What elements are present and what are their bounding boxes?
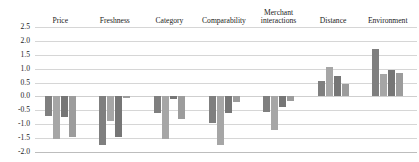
bar bbox=[388, 70, 395, 96]
y-axis-tick-label: -1.5 bbox=[18, 134, 30, 142]
bar bbox=[45, 96, 52, 115]
bar bbox=[178, 96, 185, 118]
bar bbox=[170, 96, 177, 99]
category-label-freshness: Freshness bbox=[84, 17, 147, 26]
bar bbox=[162, 96, 169, 139]
gridline bbox=[35, 55, 417, 56]
y-axis-tick-label: 0.5 bbox=[21, 79, 31, 87]
bar bbox=[279, 96, 286, 107]
category-label-comparability: Comparability bbox=[193, 17, 256, 26]
bar bbox=[61, 96, 68, 117]
bar bbox=[99, 96, 106, 145]
bar bbox=[287, 96, 294, 100]
gridline bbox=[35, 27, 417, 28]
grouped-bar-chart: PriceFreshnessCategoryComparabilityMerch… bbox=[0, 0, 419, 162]
category-label-band: PriceFreshnessCategoryComparabilityMerch… bbox=[0, 0, 419, 26]
category-label-environment: Environment bbox=[356, 17, 419, 26]
bar bbox=[217, 96, 224, 145]
bar bbox=[225, 96, 232, 113]
category-label-price: Price bbox=[29, 17, 92, 26]
y-axis-tick-label: 0.0 bbox=[21, 92, 31, 100]
bar bbox=[263, 96, 270, 111]
gridline bbox=[35, 124, 417, 125]
y-axis-tick-label: 1.0 bbox=[21, 65, 31, 73]
bar bbox=[123, 96, 130, 97]
bar bbox=[396, 73, 403, 97]
gridline bbox=[35, 41, 417, 42]
bar bbox=[326, 67, 333, 96]
bar bbox=[115, 96, 122, 136]
category-label-distance: Distance bbox=[302, 17, 365, 26]
category-label-category: Category bbox=[138, 17, 201, 26]
bar bbox=[69, 96, 76, 136]
bar bbox=[380, 74, 387, 96]
bar bbox=[107, 96, 114, 121]
bar bbox=[53, 96, 60, 139]
y-axis-tick-label: 1.5 bbox=[21, 51, 31, 59]
bar bbox=[209, 96, 216, 122]
plot-area bbox=[35, 27, 417, 152]
gridline bbox=[35, 138, 417, 139]
bar bbox=[318, 81, 325, 96]
bar bbox=[271, 96, 278, 129]
y-axis-tick-label: 2.0 bbox=[21, 37, 31, 45]
gridline bbox=[35, 69, 417, 70]
bar bbox=[154, 96, 161, 113]
gridline bbox=[35, 83, 417, 84]
y-axis-tick-label: -0.5 bbox=[18, 106, 30, 114]
y-axis-tick-label: -1.0 bbox=[18, 120, 30, 128]
y-axis: 2.52.01.51.00.50.0-0.5-1.0-1.5-2.0 bbox=[0, 27, 33, 152]
bar bbox=[334, 76, 341, 97]
bar bbox=[233, 96, 240, 102]
x-axis-line bbox=[35, 152, 417, 153]
y-axis-tick-label: 2.5 bbox=[21, 23, 31, 31]
bar bbox=[342, 84, 349, 97]
y-axis-tick-label: -2.0 bbox=[18, 148, 30, 156]
category-label-merchant-interactions: Merchant interactions bbox=[247, 9, 310, 26]
bar bbox=[372, 49, 379, 96]
